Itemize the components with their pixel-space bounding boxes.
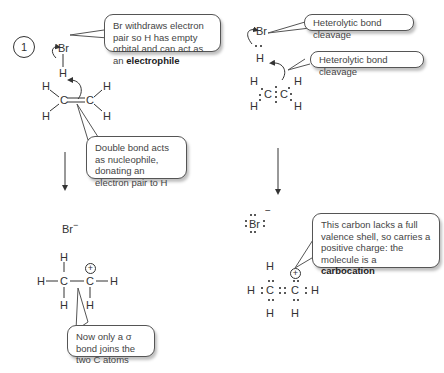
electron-dot — [260, 45, 262, 47]
carbocation-carbon-1: C — [60, 276, 68, 287]
electron-dot — [275, 96, 277, 98]
ethene-h-top-right: H — [103, 81, 111, 92]
callout-heterolytic-cleavage-1: Heterolytic bond cleavage — [304, 14, 414, 31]
electron-dot — [245, 225, 247, 227]
positive-charge-icon: + — [85, 263, 96, 274]
hbr-hydrogen: H — [59, 68, 67, 79]
bromide-ion: Br− — [62, 221, 78, 235]
callout-heterolytic-cleavage-2: Heterolytic bond cleavage — [310, 51, 424, 68]
callout-cleavage-1-text: Heterolytic bond cleavage — [313, 17, 382, 40]
callout-carbocation: This carbon lacks a full valence shell, … — [312, 213, 440, 268]
electron-dot — [275, 101, 277, 103]
electron-dot — [293, 280, 295, 282]
hbr-bromine: Br — [58, 43, 69, 54]
right-ethene-h-top-left: H — [250, 76, 258, 87]
electron-dot — [290, 99, 292, 101]
electron-dot — [288, 87, 290, 89]
right-bromide-charge: − — [265, 206, 271, 216]
electron-dot — [263, 225, 265, 227]
carbocation-h-right: H — [110, 276, 118, 287]
right-ethene-h-bottom-left: H — [250, 101, 258, 112]
electron-dot — [261, 88, 263, 90]
electron-dot — [261, 287, 263, 289]
electron-dot — [250, 231, 252, 233]
callout-carbocation-bold: carbocation — [321, 265, 375, 276]
right-carbocation-h-left: H — [247, 285, 255, 296]
carbocation-h-bottom-right: H — [86, 300, 94, 311]
electron-dot — [259, 94, 261, 96]
callout-cleavage-2-text: Heterolytic bond cleavage — [319, 54, 388, 77]
callout-nucleophile-text: Double bond acts as nucleophile, donatin… — [95, 142, 169, 188]
electron-dot — [284, 292, 286, 294]
electron-dot — [259, 99, 261, 101]
right-bromine: Br — [256, 26, 267, 37]
callout-sigma-bond: Now only a σ bond joins the two C atoms — [67, 325, 155, 357]
electron-dot — [297, 280, 299, 282]
ethene-carbon-1: C — [60, 95, 68, 106]
ethene-carbon-2: C — [86, 95, 94, 106]
electron-dot — [275, 86, 277, 88]
callout-nucleophile: Double bond acts as nucleophile, donatin… — [86, 136, 187, 179]
electron-dot — [305, 292, 307, 294]
right-ethene-carbon-2: C — [280, 89, 288, 100]
right-ethene-carbon-1: C — [264, 89, 272, 100]
electron-dot — [254, 231, 256, 233]
electron-dot — [245, 220, 247, 222]
callout-sigma-text: Now only a σ bond joins the two C atoms — [76, 331, 135, 365]
carbocation-carbon-2: C — [86, 276, 94, 287]
electron-dot — [297, 299, 299, 301]
right-carbocation-h-top: H — [266, 261, 274, 272]
callout-carbocation-text: This carbon lacks a full valence shell, … — [321, 219, 430, 265]
electron-dot — [284, 287, 286, 289]
bromide-charge: − — [73, 220, 78, 230]
carbocation-h-bottom-left: H — [60, 300, 68, 311]
electron-dot — [279, 287, 281, 289]
callout-electrophile: Br withdraws electron pair so H has empt… — [104, 14, 221, 52]
electron-dot — [250, 214, 252, 216]
ethene-h-top-left: H — [42, 81, 50, 92]
electron-dot — [272, 280, 274, 282]
electron-dot — [275, 91, 277, 93]
right-hydrogen: H — [256, 53, 264, 64]
carbocation-h-left: H — [37, 276, 45, 287]
right-carbocation-h-bottom-right: H — [291, 308, 299, 319]
right-carbocation-h-bottom-left: H — [266, 308, 274, 319]
step-number-badge: 1 — [13, 36, 35, 58]
right-carbocation-h-right: H — [311, 285, 319, 296]
electron-dot — [272, 299, 274, 301]
right-positive-charge-icon: + — [290, 268, 301, 279]
right-ethene-h-top-right: H — [294, 76, 302, 87]
callout-electrophile-bold: electrophile — [126, 55, 179, 66]
ethene-h-bottom-left: H — [42, 111, 50, 122]
electron-dot — [268, 299, 270, 301]
right-bromide-ion: Br — [249, 219, 260, 230]
right-carbocation-carbon-1: C — [266, 285, 274, 296]
electron-dot — [293, 299, 295, 301]
electron-dot — [261, 292, 263, 294]
carbocation-h-top: H — [60, 252, 68, 263]
electron-dot — [263, 220, 265, 222]
electron-dot — [290, 93, 292, 95]
electron-dot — [305, 287, 307, 289]
right-carbocation-carbon-2: C — [291, 285, 299, 296]
ethene-h-bottom-right: H — [103, 111, 111, 122]
electron-dot — [255, 45, 257, 47]
right-ethene-h-bottom-right: H — [294, 101, 302, 112]
bromide-symbol: Br — [62, 223, 73, 235]
electron-dot — [254, 214, 256, 216]
electron-dot — [268, 280, 270, 282]
electron-dot — [279, 292, 281, 294]
